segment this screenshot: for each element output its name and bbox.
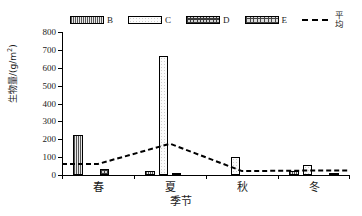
x-axis-title: 季节: [0, 196, 362, 207]
legend-swatch-d-icon: [186, 16, 220, 24]
y-axis-tick: [58, 139, 62, 140]
legend-dashed-line-icon: [302, 19, 328, 21]
y-axis-title-superscript: 2: [6, 48, 14, 52]
legend-label-average: 平均: [335, 11, 350, 29]
legend-swatch-e-icon: [245, 16, 279, 24]
x-axis-tick: [134, 175, 135, 179]
y-axis-tick: [58, 104, 62, 105]
x-axis-category-label: 冬: [309, 182, 320, 193]
biomass-season-bar-chart: B C D E 平均 0100200300400500600700800 春夏秋…: [0, 0, 362, 216]
bar-c-冬: [303, 165, 313, 175]
legend-item-b: B: [70, 16, 128, 25]
y-axis-tick-label: 400: [43, 99, 57, 108]
bar-c-秋: [231, 157, 241, 175]
y-axis-title-tail: ): [8, 44, 18, 48]
legend-label-c: C: [165, 16, 171, 25]
y-axis-tick-label: 500: [43, 81, 57, 90]
x-axis-category-label: 夏: [165, 182, 176, 193]
y-axis-tick-label: 0: [52, 171, 57, 180]
bar-d-夏: [172, 173, 182, 175]
x-axis-category-label: 春: [93, 182, 104, 193]
legend-swatch-c-icon: [128, 16, 162, 24]
y-axis-tick-label: 100: [43, 153, 57, 162]
x-axis-category-label: 秋: [237, 182, 248, 193]
x-axis-tick: [278, 175, 279, 179]
y-axis-tick: [58, 32, 62, 33]
y-axis-tick-label: 300: [43, 117, 57, 126]
y-axis-tick: [58, 68, 62, 69]
x-axis-tick: [62, 175, 63, 179]
y-axis-tick-label: 700: [43, 45, 57, 54]
y-axis-tick-label: 200: [43, 135, 57, 144]
bar-d-春: [100, 169, 110, 175]
legend-swatch-b-icon: [70, 16, 104, 24]
x-axis-tick: [349, 175, 350, 179]
y-axis-tick: [58, 121, 62, 122]
y-axis-tick-label: 800: [43, 28, 57, 37]
chart-legend: B C D E 平均: [70, 13, 362, 27]
bar-b-冬: [289, 171, 299, 175]
legend-item-e: E: [245, 16, 303, 25]
bar-e-冬: [329, 173, 339, 175]
y-axis-title: 生物量/(g/m2): [6, 44, 18, 103]
legend-label-b: B: [107, 16, 113, 25]
legend-label-d: D: [223, 16, 230, 25]
legend-item-average: 平均: [302, 11, 362, 29]
y-axis-tick: [58, 86, 62, 87]
bar-b-夏: [145, 171, 155, 175]
average-line-series: [62, 32, 350, 175]
legend-item-c: C: [128, 16, 186, 25]
y-axis-tick: [58, 157, 62, 158]
legend-item-d: D: [186, 16, 245, 25]
bar-b-春: [73, 135, 83, 175]
y-axis-title-main: 生物量/(g/m: [8, 52, 18, 103]
y-axis: [62, 32, 63, 175]
y-axis-tick: [58, 50, 62, 51]
y-axis-tick-label: 600: [43, 63, 57, 72]
plot-area: 0100200300400500600700800 春夏秋冬: [62, 32, 350, 175]
legend-label-e: E: [282, 16, 288, 25]
x-axis-tick: [206, 175, 207, 179]
bar-c-夏: [159, 56, 169, 175]
